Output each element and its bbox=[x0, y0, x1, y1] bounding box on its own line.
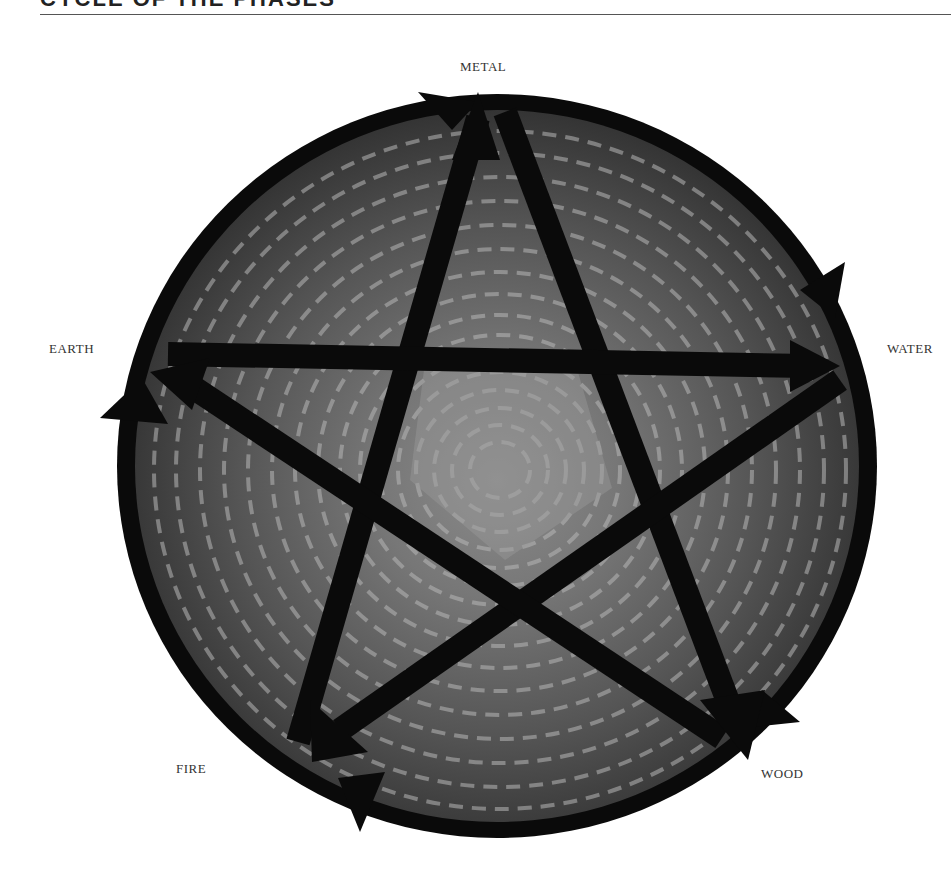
label-earth: EARTH bbox=[49, 341, 94, 357]
label-metal: METAL bbox=[460, 59, 506, 75]
label-water: WATER bbox=[887, 341, 933, 357]
five-phase-diagram bbox=[0, 0, 951, 879]
label-fire: FIRE bbox=[176, 761, 206, 777]
label-wood: WOOD bbox=[761, 766, 803, 782]
textured-circle bbox=[117, 94, 877, 838]
